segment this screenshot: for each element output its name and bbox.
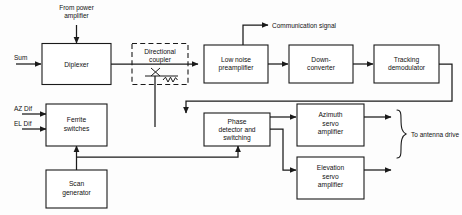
block-down-converter-label-line2: converter [307,64,336,71]
wire-phasedetector-to-elevationservo [270,129,296,170]
block-elevation-servo-label-line2: servo [322,173,339,180]
block-azimuth-servo-label-line1: Azimuth [318,111,342,118]
label-from-power-amplifier-line2: amplifier [64,12,89,20]
block-diplexer[interactable]: Diplexer [42,44,111,85]
block-tracking-demodulator[interactable]: Tracking demodulator [374,45,439,83]
block-tracking-demodulator-label-line2: demodulator [388,64,426,71]
block-ferrite-switches-label-line1: Ferrite [67,116,87,123]
block-low-noise-preamplifier-label-line2: preamplifier [219,64,255,72]
block-tracking-demodulator-label-line1: Tracking [394,56,420,64]
wire-scangenerator-to-phasedetector [77,146,239,157]
block-azimuth-servo-label-line3: amplifier [318,128,344,136]
block-elevation-servo-label-line3: amplifier [318,181,344,189]
block-elevation-servo-label-line1: Elevation [317,164,345,171]
block-directional-coupler-label-line2: coupler [149,56,172,64]
label-az-dif-input: AZ Dif [14,105,32,112]
block-phase-detector-label-line1: Phase [228,118,247,125]
block-scan-generator-label-line2: generator [62,189,91,197]
tracking-receiver-block-diagram: Diplexer Directional coupler Low noise p… [0,0,462,215]
label-el-dif-input: EL Dif [14,120,32,127]
coupler-termination-resistor [163,77,178,82]
label-communication-signal: Communication signal [272,22,337,30]
block-down-converter[interactable]: Down- converter [289,45,353,83]
block-diagram-canvas: Diplexer Directional coupler Low noise p… [0,0,462,215]
label-from-power-amplifier-line1: From power [59,4,95,12]
antenna-drive-brace [397,110,406,158]
block-azimuth-servo-amplifier[interactable]: Azimuth servo amplifier [297,104,364,146]
block-scan-generator-label-line1: Scan [69,180,85,187]
block-ferrite-switches-label-line2: switches [64,125,90,132]
block-phase-detector-label-line3: switching [223,134,251,142]
block-ferrite-switches[interactable]: Ferrite switches [46,104,107,146]
block-directional-coupler-label-line1: Directional [144,48,176,55]
block-elevation-servo-amplifier[interactable]: Elevation servo amplifier [297,157,364,199]
label-to-antenna-drive: To antenna drive [411,131,459,138]
label-sum-input: Sum [14,54,27,61]
block-low-noise-preamplifier[interactable]: Low noise preamplifier [204,45,268,83]
block-phase-detector-and-switching[interactable]: Phase detector and switching [204,113,270,146]
block-azimuth-servo-label-line2: servo [322,120,339,127]
block-phase-detector-label-line2: detector and [218,126,255,133]
coupler-crossover-symbol [151,68,160,76]
block-low-noise-preamplifier-label-line1: Low noise [221,56,251,63]
block-scan-generator[interactable]: Scan generator [46,170,107,208]
block-diplexer-label: Diplexer [64,61,89,69]
block-down-converter-label-line1: Down- [311,56,330,63]
